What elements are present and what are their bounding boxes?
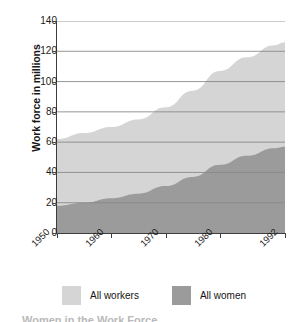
chart-figure: Work force in millions 14012010080604020… <box>0 0 300 322</box>
legend-swatch <box>172 286 191 305</box>
x-tick-mark <box>220 234 221 238</box>
y-tick-mark <box>52 112 57 113</box>
y-tick-mark <box>52 172 57 173</box>
x-tick-mark <box>57 234 58 238</box>
chart-legend: All workersAll women <box>62 286 246 305</box>
x-tick-mark <box>166 234 167 238</box>
y-tick-mark <box>52 82 57 83</box>
bottom-caption-cut: Women in the Work Force <box>22 315 282 322</box>
y-tick-mark <box>52 203 57 204</box>
legend-item: All women <box>172 286 246 305</box>
y-tick-mark <box>52 51 57 52</box>
x-tick-mark <box>285 234 286 238</box>
legend-swatch <box>62 286 81 305</box>
legend-label: All workers <box>90 290 139 301</box>
x-tick-mark <box>111 234 112 238</box>
y-tick-mark <box>52 21 57 22</box>
legend-item: All workers <box>62 286 139 305</box>
y-tick-mark <box>52 142 57 143</box>
legend-label: All women <box>200 290 246 301</box>
y-axis-labels: 140120100806040200 <box>0 0 300 322</box>
